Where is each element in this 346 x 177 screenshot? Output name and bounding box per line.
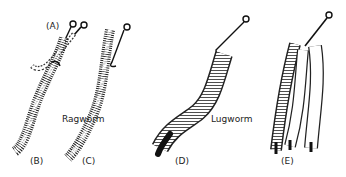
panel-e-drawing [276, 12, 332, 154]
panel-b-drawing [14, 21, 76, 152]
panel-c-drawing [68, 24, 130, 158]
panel-d-label: (D) [175, 157, 189, 166]
panel-d-drawing [158, 16, 249, 154]
panel-e-label: (E) [281, 157, 294, 166]
ragworm-label: Ragworm [62, 115, 104, 124]
lugworm-label: Lugworm [211, 115, 252, 124]
panel-b-label: (B) [30, 157, 43, 166]
bait-illustration: (A) (B) (C) (D) (E) Ragworm Lugworm [0, 0, 346, 177]
panel-a-label: (A) [46, 22, 59, 31]
panel-a-drawing [32, 22, 87, 68]
panel-c-label: (C) [82, 157, 95, 166]
